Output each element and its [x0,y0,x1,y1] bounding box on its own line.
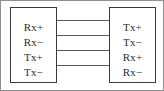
left-port-label-0: Rx+ [11,21,56,33]
right-connector-box: Tx+ Tx− Rx+ Rx− [109,7,156,83]
connection-line-3 [57,65,110,66]
right-port-label-2: Rx+ [110,51,155,63]
right-port-label-1: Tx− [110,36,155,48]
left-connector-box: Rx+ Rx− Tx+ Tx− [10,7,57,83]
left-port-label-1: Rx− [11,36,56,48]
pinout-diagram: Rx+ Rx− Tx+ Tx− Tx+ Tx− Rx+ Rx− [0,0,164,91]
left-port-label-3: Tx− [11,66,56,78]
connection-line-0 [57,20,110,21]
right-port-label-3: Rx− [110,66,155,78]
right-port-label-0: Tx+ [110,21,155,33]
connection-line-1 [57,35,110,36]
left-port-label-2: Tx+ [11,51,56,63]
connection-line-2 [57,50,110,51]
